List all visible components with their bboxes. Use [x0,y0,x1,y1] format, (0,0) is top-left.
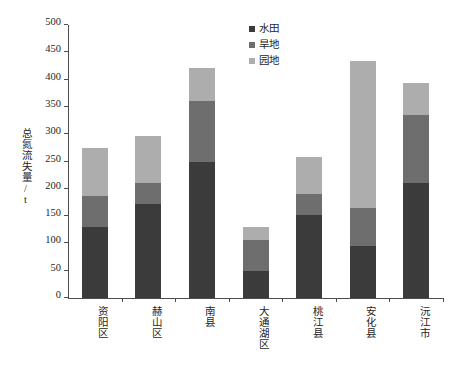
bar-segment[interactable] [403,115,429,184]
bar-column[interactable] [403,83,429,298]
bar-segment[interactable] [135,204,161,298]
x-axis-category-label: 大通湖区 [243,306,269,350]
x-axis-category-label: 资阳区 [82,306,108,339]
y-tick-label: 100 [45,235,61,246]
x-axis-category-label: 沅江市 [403,306,429,339]
stacked-bar-chart: 总氮流失量/t 050100150200250300350400450500 资… [0,0,459,372]
bar-segment[interactable] [350,61,376,208]
x-axis-category-label: 南县 [189,306,215,328]
bar-segment[interactable] [243,271,269,298]
x-tick-mark [122,298,123,302]
bar-segment[interactable] [243,240,269,271]
x-axis-category-label: 赫山区 [135,306,161,339]
bar-segment[interactable] [296,215,322,298]
bar-column[interactable] [189,68,215,298]
bar-segment[interactable] [243,227,269,240]
x-axis-category-label: 安化县 [350,306,376,339]
bar-column[interactable] [243,227,269,298]
bar-segment[interactable] [189,162,215,298]
bar-segment[interactable] [82,148,108,196]
x-tick-mark [443,298,444,302]
y-tick-label: 300 [45,126,61,137]
x-tick-mark [229,298,230,302]
bar-segment[interactable] [189,101,215,162]
legend-swatch-icon [249,42,255,48]
x-tick-mark [175,298,176,302]
legend-label: 园地 [259,56,279,67]
y-tick-label: 250 [45,154,61,165]
legend-item[interactable]: 园地 [249,54,279,68]
bar-column[interactable] [82,148,108,298]
bar-segment[interactable] [135,136,161,183]
y-tick-label: 400 [45,72,61,83]
x-tick-mark [336,298,337,302]
y-tick-label: 0 [56,290,61,301]
x-tick-mark [282,298,283,302]
legend-item[interactable]: 水田 [249,22,279,36]
y-tick-label: 350 [45,99,61,110]
bar-segment[interactable] [350,208,376,246]
legend-swatch-icon [249,26,255,32]
y-tick-label: 200 [45,181,61,192]
y-tick-label: 150 [45,208,61,219]
x-axis-category-label: 桃江县 [296,306,322,339]
bar-column[interactable] [350,61,376,298]
y-tick-label: 450 [45,44,61,55]
bar-segment[interactable] [350,246,376,298]
bar-segment[interactable] [403,183,429,298]
bar-segment[interactable] [403,83,429,115]
y-tick-label: 500 [45,17,61,28]
bar-column[interactable] [296,157,322,298]
bar-column[interactable] [135,136,161,298]
y-tick-label: 50 [51,263,62,274]
bar-segment[interactable] [82,196,108,227]
bar-segment[interactable] [135,183,161,204]
chart-legend: 水田旱地园地 [249,22,279,70]
y-axis-title: 总氮流失量/t [20,128,31,205]
bar-segment[interactable] [189,68,215,101]
legend-item[interactable]: 旱地 [249,38,279,52]
bar-segment[interactable] [296,194,322,215]
legend-label: 水田 [259,24,279,35]
x-tick-mark [389,298,390,302]
bar-segment[interactable] [296,157,322,195]
x-axis-line [68,298,444,299]
bar-segment[interactable] [82,227,108,298]
legend-label: 旱地 [259,40,279,51]
legend-swatch-icon [249,58,255,64]
